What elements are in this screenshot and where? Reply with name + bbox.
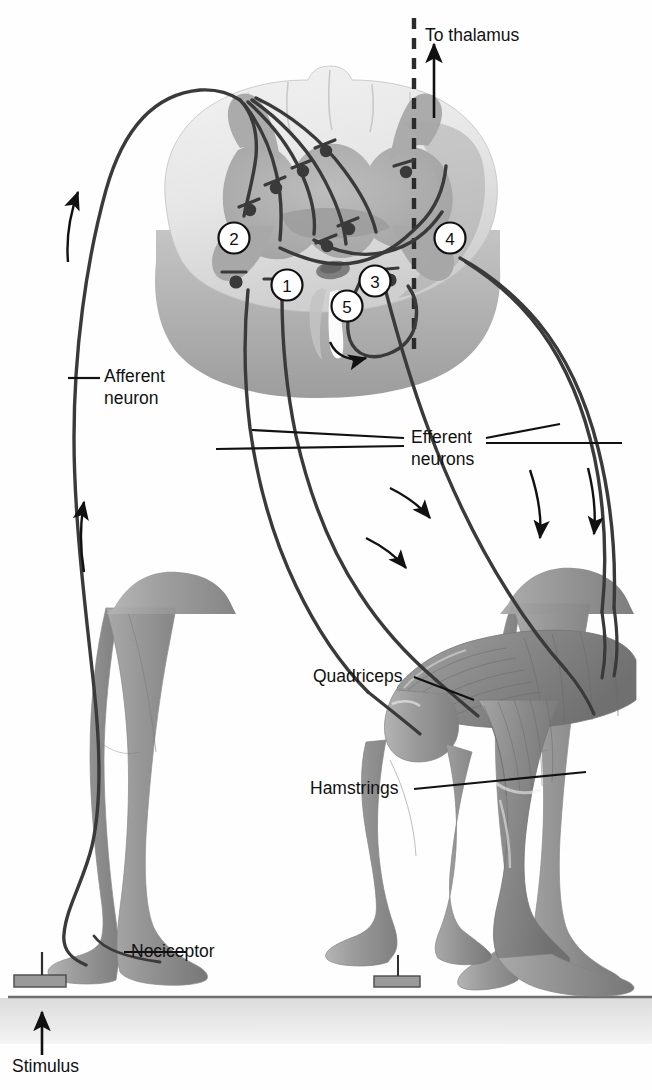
callout-2: 2: [219, 223, 250, 254]
callout-5-text: 5: [342, 298, 351, 317]
callout-1: 1: [272, 270, 303, 301]
callout-4: 4: [435, 223, 466, 254]
figure-canvas: To thalamus Afferent neuron Efferent neu…: [0, 0, 652, 1090]
callout-2-text: 2: [229, 230, 238, 249]
callout-1-text: 1: [282, 277, 291, 296]
callout-4-text: 4: [445, 230, 454, 249]
callout-3-text: 3: [370, 273, 379, 292]
callout-3: 3: [360, 266, 391, 297]
numbered-callouts: 1 2 3 4 5: [0, 0, 652, 1090]
callout-5: 5: [332, 291, 363, 322]
